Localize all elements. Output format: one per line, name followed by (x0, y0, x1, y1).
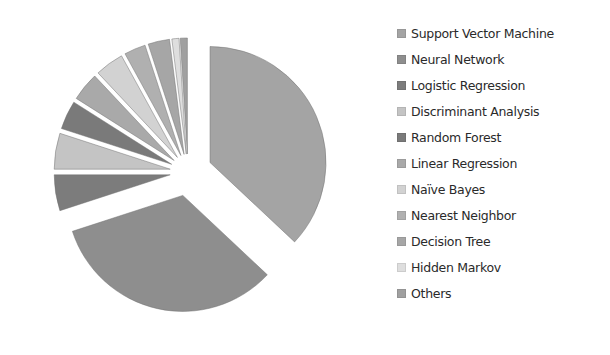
chart-legend: Support Vector Machine Neural Network Lo… (397, 20, 554, 306)
legend-swatch (397, 211, 406, 220)
legend-item-random-forest: Random Forest (397, 124, 554, 150)
legend-swatch (397, 29, 406, 38)
legend-item-naive-bayes: Naïve Bayes (397, 176, 554, 202)
legend-label: Nearest Neighbor (411, 208, 516, 223)
legend-label: Decision Tree (411, 234, 490, 249)
legend-item-nearest-neighbor: Nearest Neighbor (397, 202, 554, 228)
legend-item-discriminant-analysis: Discriminant Analysis (397, 98, 554, 124)
legend-swatch (397, 159, 406, 168)
legend-swatch (397, 263, 406, 272)
legend-label: Discriminant Analysis (411, 104, 539, 119)
pie-chart-svg (0, 0, 380, 355)
legend-item-others: Others (397, 280, 554, 306)
legend-swatch (397, 107, 406, 116)
legend-item-hidden-markov: Hidden Markov (397, 254, 554, 280)
pie-slice-neural-network (72, 195, 267, 311)
legend-label: Linear Regression (411, 156, 517, 171)
legend-item-neural-network: Neural Network (397, 46, 554, 72)
legend-item-decision-tree: Decision Tree (397, 228, 554, 254)
legend-swatch (397, 55, 406, 64)
legend-swatch (397, 133, 406, 142)
legend-label: Others (411, 286, 451, 301)
legend-swatch (397, 289, 406, 298)
legend-label: Hidden Markov (411, 260, 501, 275)
legend-label: Naïve Bayes (411, 182, 485, 197)
legend-item-logistic-regression: Logistic Regression (397, 72, 554, 98)
legend-label: Logistic Regression (411, 78, 525, 93)
legend-swatch (397, 237, 406, 246)
legend-label: Neural Network (411, 52, 504, 67)
pie-slice-support-vector-machine (210, 46, 326, 241)
legend-item-support-vector-machine: Support Vector Machine (397, 20, 554, 46)
pie-chart (0, 0, 380, 355)
legend-item-linear-regression: Linear Regression (397, 150, 554, 176)
legend-label: Support Vector Machine (411, 26, 554, 41)
legend-swatch (397, 185, 406, 194)
legend-swatch (397, 81, 406, 90)
legend-label: Random Forest (411, 130, 501, 145)
